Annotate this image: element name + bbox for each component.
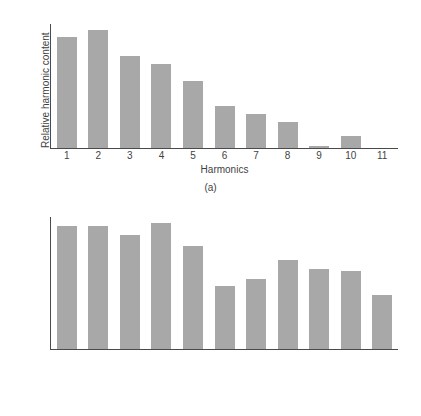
bar-11-b (372, 295, 392, 349)
bar-10-a (341, 136, 361, 148)
bar-2-a (88, 30, 108, 148)
bar-slot (146, 24, 178, 148)
x-tick-labels-a: 1234567891011 (51, 150, 398, 161)
x-tick-2-a: 2 (83, 150, 115, 161)
bar-series-b (51, 217, 398, 349)
bar-2-b (88, 226, 108, 349)
bar-4-b (151, 223, 171, 349)
bar-1-b (57, 226, 77, 349)
x-tick-1-a: 1 (51, 150, 83, 161)
bar-slot (51, 24, 83, 148)
bar-slot (51, 217, 83, 349)
bar-5-a (183, 81, 203, 148)
bar-slot (335, 24, 367, 148)
x-tick-6-a: 6 (209, 150, 241, 161)
x-tick-5-a: 5 (177, 150, 209, 161)
bar-slot (146, 217, 178, 349)
bar-slot (366, 24, 398, 148)
plot-area-a (50, 24, 398, 149)
bar-8-a (278, 122, 298, 148)
bar-slot (303, 24, 335, 148)
bar-slot (114, 217, 146, 349)
bar-9-b (309, 269, 329, 349)
bar-6-a (215, 106, 235, 149)
x-tick-8-a: 8 (272, 150, 304, 161)
bar-9-a (309, 146, 329, 148)
bar-10-b (341, 271, 361, 349)
bar-slot (240, 24, 272, 148)
x-tick-7-a: 7 (240, 150, 272, 161)
harmonic-content-figure: 1234567891011 Harmonics Relative harmoni… (0, 0, 421, 416)
bar-slot (366, 217, 398, 349)
bar-series-a (51, 24, 398, 148)
x-tick-11-a: 11 (366, 150, 398, 161)
x-tick-4-a: 4 (146, 150, 178, 161)
bar-slot (303, 217, 335, 349)
x-tick-10-a: 10 (335, 150, 367, 161)
bar-slot (209, 217, 241, 349)
bar-slot (209, 24, 241, 148)
bar-slot (114, 24, 146, 148)
bar-4-a (151, 64, 171, 148)
x-tick-9-a: 9 (303, 150, 335, 161)
bar-slot (83, 217, 115, 349)
y-axis-title-a: Relative harmonic content (40, 32, 51, 148)
x-tick-3-a: 3 (114, 150, 146, 161)
x-axis-title-a: Harmonics (51, 164, 398, 175)
bar-slot (272, 217, 304, 349)
bar-slot (272, 24, 304, 148)
bar-slot (177, 217, 209, 349)
bar-slot (177, 24, 209, 148)
bar-8-b (278, 260, 298, 349)
bar-6-b (215, 286, 235, 349)
bar-7-a (246, 114, 266, 148)
x-axis-line-b (50, 349, 398, 350)
x-axis-line-a (50, 148, 398, 149)
bar-1-a (57, 37, 77, 148)
panel-caption-a: (a) (0, 182, 421, 193)
plot-area-b (50, 217, 398, 350)
chart-panel-b: 1234567891011 Harmonics Relative harmoni… (0, 205, 421, 416)
bar-slot (240, 217, 272, 349)
bar-slot (335, 217, 367, 349)
chart-panel-a: 1234567891011 Harmonics Relative harmoni… (0, 0, 421, 205)
bar-5-b (183, 246, 203, 349)
bar-3-b (120, 235, 140, 349)
bar-7-b (246, 279, 266, 349)
bar-3-a (120, 56, 140, 148)
bar-slot (83, 24, 115, 148)
